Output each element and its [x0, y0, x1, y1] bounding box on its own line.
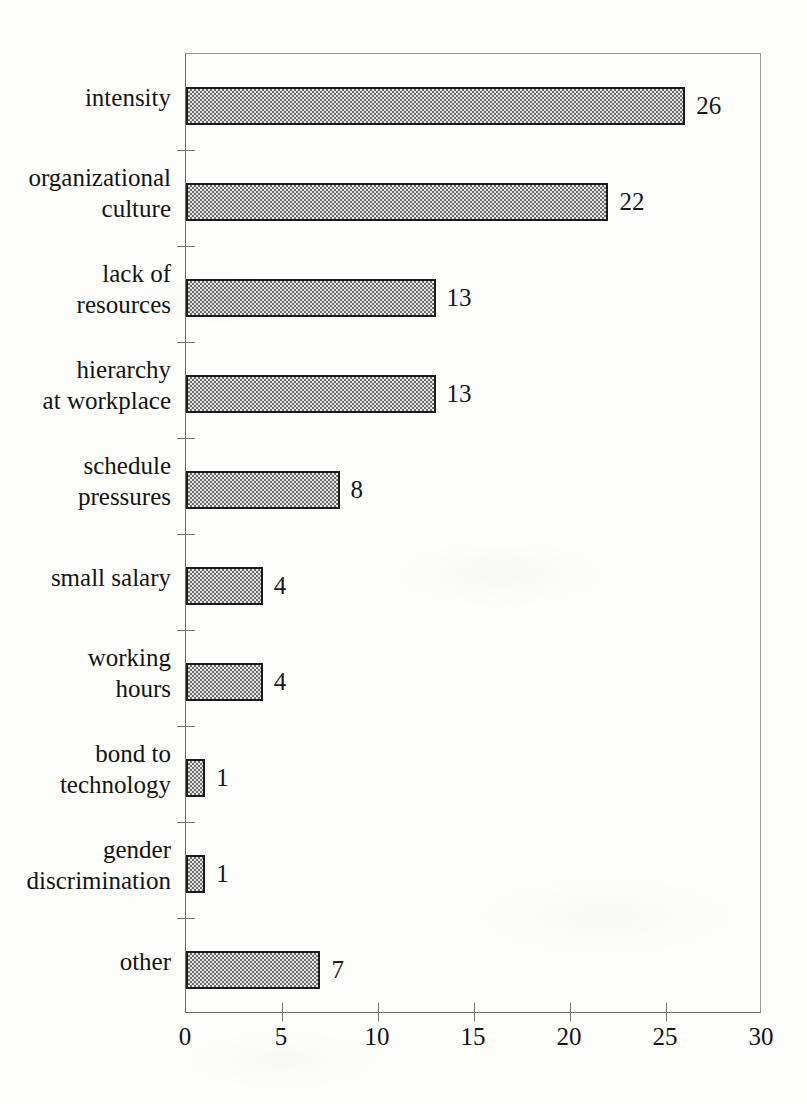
- x-axis-tick: [474, 1003, 475, 1021]
- bar-hierarchy-at-workplace[interactable]: [186, 375, 436, 413]
- bar-value-label: 1: [216, 762, 229, 794]
- chart-page: 26221313844117 intensityorganizationalcu…: [0, 0, 807, 1104]
- x-axis-label-0: 0: [155, 1022, 215, 1052]
- bar-value-label: 4: [274, 666, 287, 698]
- category-label-lack-of-resources: lack ofresources: [3, 258, 171, 320]
- bar-organizational-culture[interactable]: [186, 183, 608, 221]
- category-label-hierarchy-at-workplace: hierarchyat workplace: [3, 354, 171, 416]
- x-axis-label-15: 15: [443, 1022, 503, 1052]
- category-label-intensity: intensity: [3, 82, 171, 113]
- bar-intensity[interactable]: [186, 87, 685, 125]
- bar-value-label: 22: [619, 186, 644, 218]
- x-axis-tick: [570, 1003, 571, 1021]
- category-label-line: technology: [3, 769, 171, 800]
- bar-value-label: 7: [331, 954, 344, 986]
- category-label-line: other: [3, 946, 171, 977]
- category-label-gender-discrimination: genderdiscrimination: [3, 834, 171, 896]
- category-label-line: hierarchy: [3, 354, 171, 385]
- bar-value-label: 1: [216, 858, 229, 890]
- category-label-other: other: [3, 946, 171, 977]
- y-axis-tick: [177, 438, 195, 439]
- category-label-working-hours: workinghours: [3, 642, 171, 704]
- x-axis-label-25: 25: [635, 1022, 695, 1052]
- category-label-small-salary: small salary: [3, 562, 171, 593]
- category-label-line: schedule: [3, 450, 171, 481]
- bar-chart: 26221313844117: [185, 53, 761, 1013]
- category-label-line: intensity: [3, 82, 171, 113]
- category-label-organizational-culture: organizationalculture: [3, 162, 171, 224]
- category-label-line: discrimination: [3, 865, 171, 896]
- y-axis-tick: [177, 150, 195, 151]
- category-label-line: hours: [3, 673, 171, 704]
- category-label-line: resources: [3, 289, 171, 320]
- bar-gender-discrimination[interactable]: [186, 855, 205, 893]
- bar-bond-to-technology[interactable]: [186, 759, 205, 797]
- x-axis-tick: [666, 1003, 667, 1021]
- category-label-line: organizational: [3, 162, 171, 193]
- category-label-line: gender: [3, 834, 171, 865]
- bar-value-label: 4: [274, 570, 287, 602]
- x-axis-label-20: 20: [539, 1022, 599, 1052]
- y-axis-tick: [177, 822, 195, 823]
- x-axis-tick: [378, 1003, 379, 1021]
- bar-value-label: 13: [447, 378, 472, 410]
- bar-lack-of-resources[interactable]: [186, 279, 436, 317]
- x-axis-tick: [282, 1003, 283, 1021]
- bar-other[interactable]: [186, 951, 320, 989]
- category-label-line: culture: [3, 193, 171, 224]
- x-axis-label-10: 10: [347, 1022, 407, 1052]
- y-axis-tick: [177, 342, 195, 343]
- bar-value-label: 8: [351, 474, 364, 506]
- x-axis-label-5: 5: [251, 1022, 311, 1052]
- plot-area: 26221313844117: [186, 54, 760, 1012]
- y-axis-tick: [177, 918, 195, 919]
- category-label-line: pressures: [3, 481, 171, 512]
- category-label-line: small salary: [3, 562, 171, 593]
- bar-schedule-pressures[interactable]: [186, 471, 340, 509]
- bar-value-label: 13: [447, 282, 472, 314]
- y-axis-tick: [177, 726, 195, 727]
- y-axis-tick: [177, 246, 195, 247]
- y-axis-tick: [177, 630, 195, 631]
- category-label-line: working: [3, 642, 171, 673]
- bar-working-hours[interactable]: [186, 663, 263, 701]
- x-axis-label-30: 30: [731, 1022, 791, 1052]
- category-label-line: at workplace: [3, 385, 171, 416]
- category-label-bond-to-technology: bond totechnology: [3, 738, 171, 800]
- bar-small-salary[interactable]: [186, 567, 263, 605]
- bar-value-label: 26: [696, 90, 721, 122]
- category-label-line: lack of: [3, 258, 171, 289]
- y-axis-tick: [177, 534, 195, 535]
- category-label-line: bond to: [3, 738, 171, 769]
- category-label-schedule-pressures: schedulepressures: [3, 450, 171, 512]
